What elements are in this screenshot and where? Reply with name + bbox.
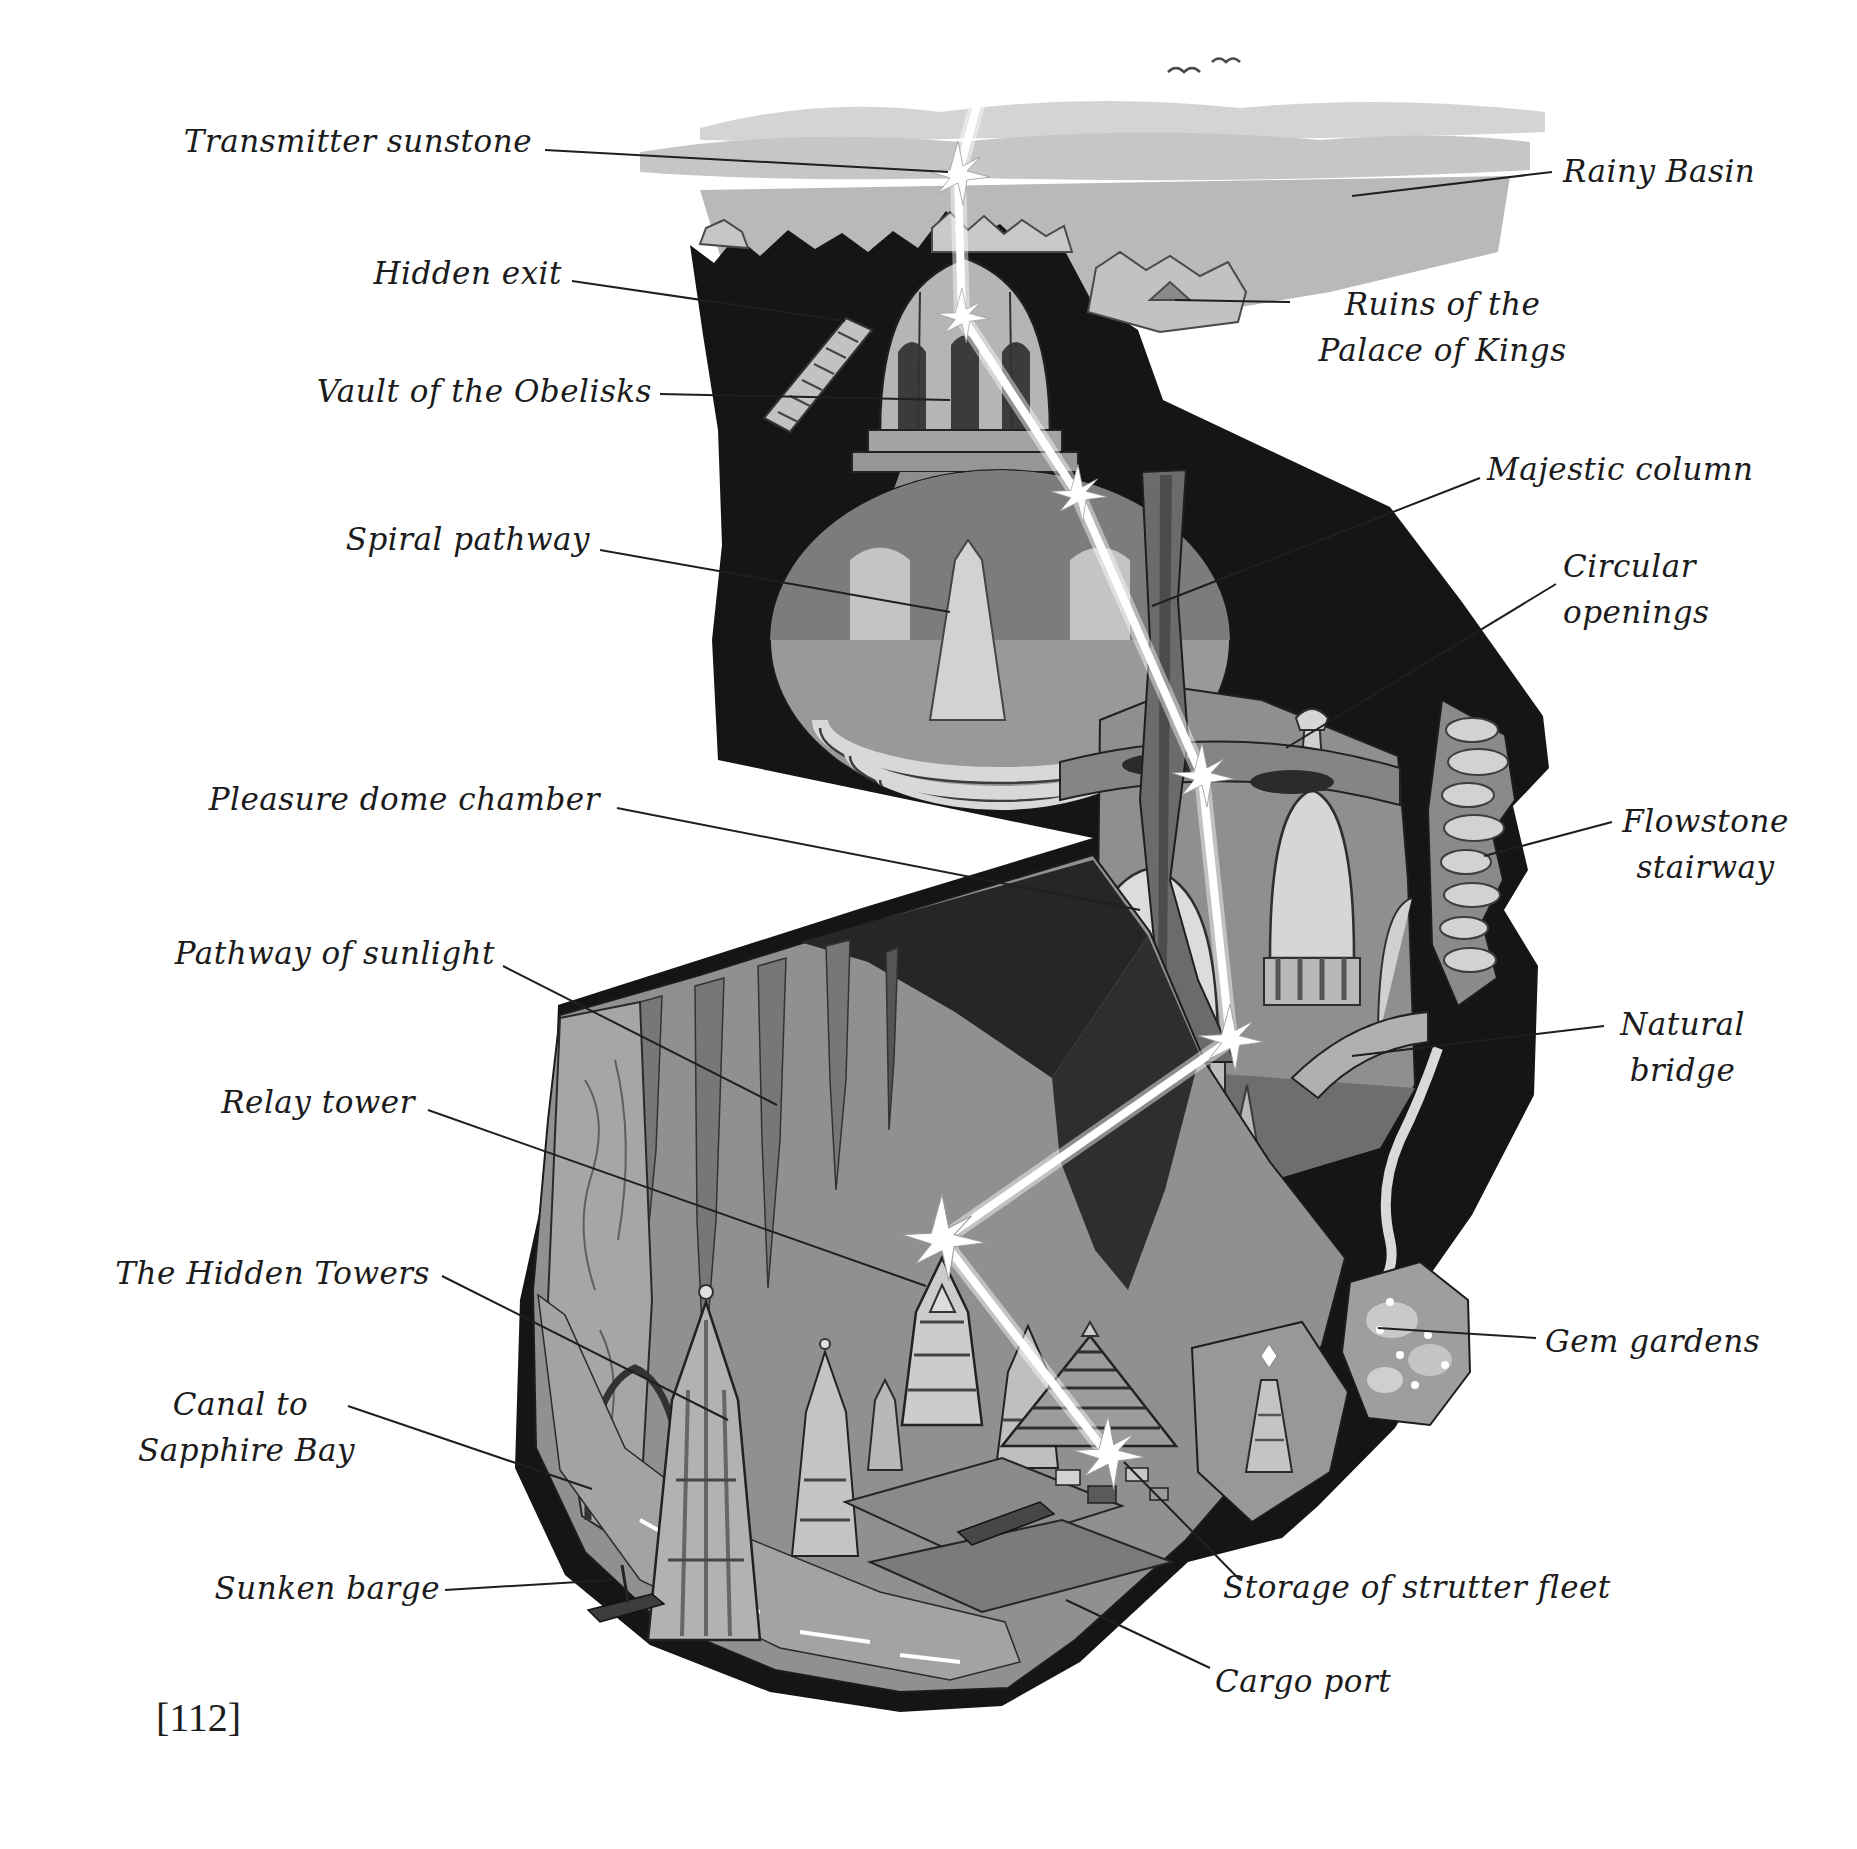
label-circular-line1: Circular — [1563, 543, 1709, 589]
label-relay-tower: Relay tower — [221, 1079, 415, 1125]
label-flowstone-line1: Flowstone — [1618, 798, 1793, 844]
label-vault-of-the-obelisks: Vault of the Obelisks — [317, 368, 652, 414]
label-ruins-of-the-palace-of-kings: Ruins of the Palace of Kings — [1300, 281, 1585, 373]
label-natural-bridge: Natural bridge — [1610, 1001, 1755, 1093]
label-transmitter-sunstone: Transmitter sunstone — [184, 118, 532, 164]
page-number: [112] — [156, 1694, 241, 1741]
label-flowstone-line2: stairway — [1618, 844, 1793, 890]
label-rainy-basin: Rainy Basin — [1563, 148, 1755, 194]
label-natural-line1: Natural — [1610, 1001, 1755, 1047]
label-canal-line1: Canal to — [138, 1381, 343, 1427]
book-page: Transmitter sunstone Hidden exit Vault o… — [0, 0, 1857, 1849]
label-pathway-of-sunlight: Pathway of sunlight — [175, 930, 495, 976]
label-sunken-barge: Sunken barge — [215, 1565, 440, 1611]
label-spiral-pathway: Spiral pathway — [346, 516, 590, 562]
label-pleasure-dome-chamber: Pleasure dome chamber — [209, 776, 600, 822]
label-canal-to-sapphire-bay: Canal to Sapphire Bay — [138, 1381, 343, 1473]
label-flowstone-stairway: Flowstone stairway — [1618, 798, 1793, 890]
label-circular-openings: Circular openings — [1563, 543, 1709, 635]
bird-icon — [1168, 59, 1240, 73]
gem-gardens — [1342, 1262, 1470, 1425]
label-the-hidden-towers: The Hidden Towers — [115, 1250, 430, 1296]
label-ruins-line1: Ruins of the — [1300, 281, 1585, 327]
label-hidden-exit: Hidden exit — [373, 250, 562, 296]
label-natural-line2: bridge — [1610, 1047, 1755, 1093]
label-majestic-column: Majestic column — [1487, 446, 1753, 492]
label-ruins-line2: Palace of Kings — [1300, 327, 1585, 373]
label-gem-gardens: Gem gardens — [1545, 1318, 1760, 1364]
label-canal-line2: Sapphire Bay — [138, 1427, 343, 1473]
label-cargo-port: Cargo port — [1215, 1658, 1391, 1704]
label-storage-of-strutter-fleet: Storage of strutter fleet — [1223, 1564, 1611, 1610]
label-circular-line2: openings — [1563, 589, 1709, 635]
